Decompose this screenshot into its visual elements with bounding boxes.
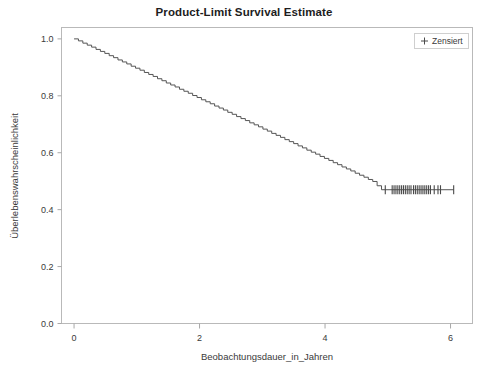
chart-background	[0, 0, 488, 376]
y-tick-label: 0.0	[41, 319, 54, 329]
x-tick-label: 4	[323, 333, 328, 343]
chart-title: Product-Limit Survival Estimate	[156, 6, 333, 18]
y-axis-label: Überlebenswahrscheinlichkeit	[9, 113, 20, 239]
y-tick-label: 0.2	[41, 262, 54, 272]
x-tick-label: 2	[197, 333, 202, 343]
x-axis-label: Beobachtungsdauer_in_Jahren	[201, 351, 333, 362]
survival-chart: Product-Limit Survival Estimate 0.00.20.…	[0, 0, 488, 376]
x-tick-label: 0	[72, 333, 77, 343]
y-tick-label: 0.4	[41, 205, 54, 215]
legend-label-zensiert: Zensiert	[432, 36, 463, 46]
chart-canvas: Product-Limit Survival Estimate 0.00.20.…	[0, 0, 488, 376]
y-tick-label: 0.6	[41, 148, 54, 158]
legend: Zensiert	[415, 34, 469, 49]
y-tick-label: 0.8	[41, 91, 54, 101]
y-tick-label: 1.0	[41, 34, 54, 44]
x-tick-label: 6	[448, 333, 453, 343]
